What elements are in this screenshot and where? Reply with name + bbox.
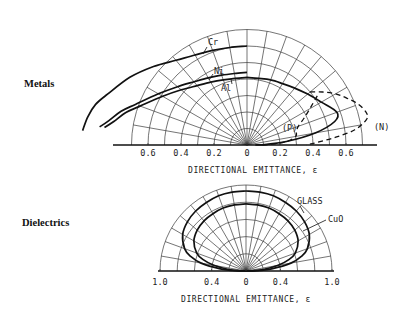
annotation-p: (P)	[282, 123, 297, 133]
metals-x-axis-title: DIRECTIONAL EMITTANCE, ε	[188, 166, 318, 175]
curve-al-right	[247, 77, 338, 145]
annotation-glass: GLASS	[297, 196, 323, 206]
dielectrics-x-axis-title: DIRECTIONAL EMITTANCE, ε	[181, 295, 311, 304]
tick-label: 1.0	[152, 277, 167, 287]
tick-label: 0.4	[204, 277, 219, 287]
tick-label: 0	[244, 148, 249, 158]
tick-label: 0.4	[305, 148, 320, 158]
tick-label: 0.2	[206, 148, 221, 158]
annotation-cr: Cr	[208, 37, 218, 47]
tick-label: 0.6	[140, 148, 155, 158]
annotation-cuo: CuO	[328, 214, 343, 224]
tick-label: 0	[243, 277, 248, 287]
tick-label: 0.4	[173, 148, 188, 158]
tick-label: 0.4	[273, 277, 288, 287]
annotation-n: (N)	[374, 122, 389, 132]
annotation-ni: Ni	[214, 66, 224, 76]
tick-label: 1.0	[324, 277, 339, 287]
emittance-figure: 0.60.40.200.20.40.6 DIRECTIONAL EMITTANC…	[0, 0, 408, 319]
tick-label: 0.6	[338, 148, 353, 158]
tick-label: 0.2	[272, 148, 287, 158]
metals-curves	[83, 46, 368, 145]
dielectrics-panel-label: Dielectrics	[22, 217, 69, 228]
annotation-al: Al	[221, 83, 231, 93]
dielectrics-chart: 1.00.400.41.0 DIRECTIONAL EMITTANCE, ε D…	[22, 185, 343, 304]
metals-chart: 0.60.40.200.20.40.6 DIRECTIONAL EMITTANC…	[24, 30, 389, 176]
metals-panel-label: Metals	[24, 78, 54, 89]
